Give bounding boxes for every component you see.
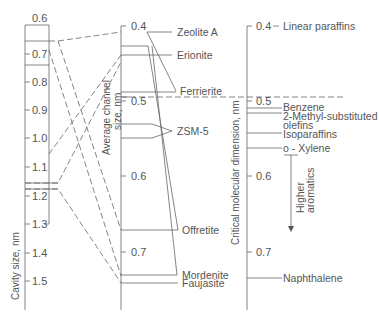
channel-axis-title-line1: Average channel <box>101 80 112 155</box>
cavity-tick-1.4: 1.4 <box>32 247 47 259</box>
label-erionite: Erionite <box>177 49 213 61</box>
cavity-tick-1.3: 1.3 <box>32 218 47 230</box>
molecular-dimension-axis: 0.4 0.5 0.6 0.7 Critical molecular dimen… <box>230 20 298 310</box>
cavity-tick-1.2: 1.2 <box>32 190 47 202</box>
channel-tick-0.4: 0.4 <box>131 20 146 32</box>
label-zsm-5: ZSM-5 <box>177 125 209 137</box>
molecular-tick-0.4: 0.4 <box>256 20 271 32</box>
molecular-axis-title: Critical molecular dimension, nm <box>230 101 241 246</box>
connector-lines <box>25 32 121 283</box>
label-naphthalene: Naphthalene <box>283 272 343 284</box>
cavity-size-axis-title: Cavity size, nm <box>10 232 21 300</box>
cavity-tick-1.1: 1.1 <box>32 161 47 173</box>
cavity-tick-1.5: 1.5 <box>32 275 47 287</box>
molecular-tick-0.6: 0.6 <box>256 170 271 182</box>
channel-size-axis: 0.4 0.5 0.6 0.7 Average channel size, nm <box>101 20 178 310</box>
channel-axis-title-line2: size, nm <box>112 93 123 130</box>
label-offretite: Offretite <box>182 224 219 236</box>
label-zeolite-a: Zeolite A <box>177 26 218 38</box>
label-faujasite: Faujasite <box>182 277 225 289</box>
molecule-labels: Linear paraffins Benzene 2-Methyl-substi… <box>283 20 378 284</box>
cavity-tick-0.8: 0.8 <box>32 76 47 88</box>
zeolite-pore-size-diagram: 0.6 0.7 0.8 0.9 1.0 1.1 1.2 1.3 1.4 1.5 … <box>0 0 379 318</box>
label-higher-aromatics-2: aromatics <box>304 167 316 213</box>
label-ferrierite: Ferrierite <box>180 85 222 97</box>
cavity-tick-0.6: 0.6 <box>32 12 47 24</box>
label-o-xylene: o - Xylene <box>283 142 330 154</box>
arrow-down-icon <box>288 226 294 232</box>
channel-tick-0.7: 0.7 <box>131 246 146 258</box>
molecular-tick-0.7: 0.7 <box>256 246 271 258</box>
label-linear-paraffins: Linear paraffins <box>283 20 355 32</box>
cavity-tick-0.9: 0.9 <box>32 104 47 116</box>
channel-tick-0.6: 0.6 <box>131 170 146 182</box>
cavity-size-axis: 0.6 0.7 0.8 0.9 1.0 1.1 1.2 1.3 1.4 1.5 … <box>10 12 58 310</box>
zeolite-labels: Zeolite A Erionite Ferrierite ZSM-5 Offr… <box>177 26 229 289</box>
molecular-tick-0.5: 0.5 <box>256 95 271 107</box>
cavity-tick-1.0: 1.0 <box>32 132 47 144</box>
label-isoparaffins: Isoparaffins <box>283 128 337 140</box>
cavity-tick-0.7: 0.7 <box>32 48 47 60</box>
